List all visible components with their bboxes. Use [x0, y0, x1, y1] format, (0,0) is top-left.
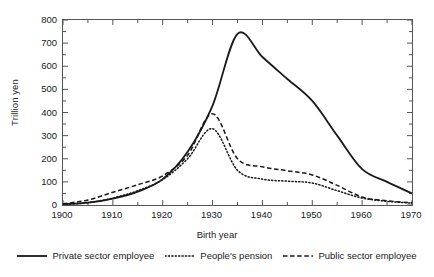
x-tick-label: 1910 — [90, 209, 134, 220]
x-tick-label: 1970 — [389, 209, 433, 220]
legend-item: People's pension — [165, 250, 272, 261]
chart-legend: Private sector employeePeople's pensionP… — [0, 250, 434, 261]
legend-swatch-dotted-icon — [165, 252, 195, 260]
legend-label: Private sector employee — [52, 250, 154, 261]
x-tick-label: 1950 — [289, 209, 333, 220]
x-tick-label: 1900 — [40, 209, 84, 220]
legend-item: Public sector employee — [283, 250, 416, 261]
x-tick-label: 1920 — [140, 209, 184, 220]
legend-label: People's pension — [200, 250, 272, 261]
x-tick-label: 1960 — [339, 209, 383, 220]
x-tick-label: 1940 — [239, 209, 283, 220]
legend-item: Private sector employee — [17, 250, 154, 261]
legend-swatch-dashed-icon — [283, 252, 313, 260]
legend-swatch-solid-icon — [17, 252, 47, 260]
x-axis-title: Birth year — [0, 229, 434, 240]
legend-label: Public sector employee — [318, 250, 416, 261]
chart-figure: Trillion yen 0100200300400500600700800 1… — [0, 0, 434, 277]
x-tick-label: 1930 — [190, 209, 234, 220]
